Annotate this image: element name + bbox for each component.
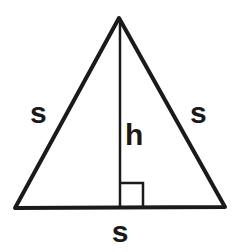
right-side-label: s: [190, 96, 207, 129]
left-side-label: s: [30, 96, 47, 129]
base-label: s: [112, 215, 129, 248]
right-angle-marker: [121, 183, 143, 207]
height-label: h: [125, 118, 143, 151]
triangle-diagram: s s h s: [0, 0, 234, 252]
